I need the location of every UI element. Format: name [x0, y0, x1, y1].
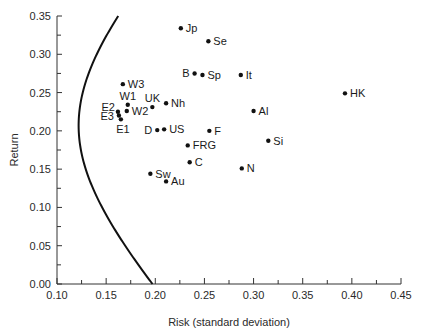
- point-marker: [251, 109, 255, 113]
- y-tick-label: 0.10: [30, 201, 51, 213]
- x-tick-label: 0.45: [390, 289, 411, 301]
- point-label: W2: [132, 105, 149, 117]
- point-marker: [164, 101, 168, 105]
- data-point-nh: Nh: [164, 97, 185, 109]
- point-marker: [207, 129, 211, 133]
- point-label: D: [144, 124, 152, 136]
- y-tick-label: 0.15: [30, 163, 51, 175]
- point-label: HK: [350, 87, 366, 99]
- point-label: B: [182, 67, 189, 79]
- data-point-al: Al: [251, 105, 268, 117]
- point-label: C: [195, 156, 203, 168]
- point-label: US: [169, 123, 184, 135]
- data-point-se: Se: [206, 35, 227, 47]
- point-label: W3: [128, 78, 145, 90]
- point-marker: [126, 103, 130, 107]
- x-tick-label: 0.25: [194, 289, 215, 301]
- x-tick-label: 0.10: [46, 289, 67, 301]
- point-marker: [266, 139, 270, 143]
- data-point-it: It: [239, 69, 252, 81]
- y-tick-label: 0.05: [30, 240, 51, 252]
- point-label: Nh: [171, 97, 185, 109]
- point-marker: [186, 143, 190, 147]
- data-point-sp: Sp: [200, 69, 221, 81]
- efficient-frontier-chart: 0.000.050.100.150.200.250.300.350.100.15…: [0, 0, 421, 334]
- point-marker: [155, 128, 159, 132]
- point-label: Au: [171, 175, 184, 187]
- data-point-e1: E1: [116, 117, 129, 135]
- x-tick-label: 0.20: [145, 289, 166, 301]
- data-point-us: US: [162, 123, 184, 135]
- y-tick-label: 0.20: [30, 125, 51, 137]
- point-marker: [162, 127, 166, 131]
- point-label: Sp: [207, 69, 220, 81]
- y-tick-label: 0.35: [30, 10, 51, 22]
- point-label: E1: [116, 123, 129, 135]
- point-marker: [117, 113, 121, 117]
- point-marker: [240, 166, 244, 170]
- axes: 0.000.050.100.150.200.250.300.350.100.15…: [30, 10, 412, 301]
- x-tick-label: 0.30: [243, 289, 264, 301]
- point-marker: [200, 73, 204, 77]
- frontier-line: [79, 16, 153, 284]
- data-point-si: Si: [266, 135, 283, 147]
- point-marker: [119, 117, 123, 121]
- y-tick-label: 0.25: [30, 87, 51, 99]
- data-point-hk: HK: [343, 87, 366, 99]
- point-label: UK: [145, 92, 161, 104]
- data-point-c: C: [187, 156, 202, 168]
- point-label: Se: [213, 35, 226, 47]
- data-point-f: F: [207, 125, 221, 137]
- point-label: It: [246, 69, 252, 81]
- point-label: E3: [100, 110, 113, 122]
- x-tick-label: 0.40: [341, 289, 362, 301]
- data-point-sw: Sw: [148, 168, 171, 180]
- point-marker: [192, 71, 196, 75]
- point-label: Jp: [186, 22, 198, 34]
- point-marker: [148, 172, 152, 176]
- point-marker: [150, 105, 154, 109]
- point-marker: [164, 179, 168, 183]
- point-label: N: [247, 162, 255, 174]
- data-point-d: D: [144, 124, 159, 136]
- data-point-w3: W3: [121, 78, 145, 90]
- x-tick-label: 0.35: [292, 289, 313, 301]
- point-marker: [239, 73, 243, 77]
- data-point-jp: Jp: [179, 22, 198, 34]
- point-marker: [179, 26, 183, 30]
- point-label: W1: [120, 90, 137, 102]
- data-point-frg: FRG: [186, 139, 216, 151]
- data-point-b: B: [182, 67, 197, 79]
- point-label: F: [214, 125, 221, 137]
- frontier-curve: [79, 16, 153, 284]
- data-points: JpSeBSpItHKAlSiNW3W1W2UKNhE2E3E1DUSFFRGC…: [100, 22, 365, 187]
- y-axis-title: Return: [8, 133, 20, 166]
- point-label: Sw: [155, 168, 170, 180]
- point-label: FRG: [193, 139, 216, 151]
- point-marker: [116, 110, 120, 114]
- point-marker: [121, 82, 125, 86]
- point-marker: [206, 39, 210, 43]
- point-marker: [125, 109, 129, 113]
- point-marker: [187, 160, 191, 164]
- data-point-n: N: [240, 162, 255, 174]
- y-tick-label: 0.30: [30, 48, 51, 60]
- point-label: Al: [259, 105, 269, 117]
- point-label: Si: [273, 135, 283, 147]
- x-axis-title: Risk (standard deviation): [168, 316, 290, 328]
- point-marker: [343, 91, 347, 95]
- x-tick-label: 0.15: [95, 289, 116, 301]
